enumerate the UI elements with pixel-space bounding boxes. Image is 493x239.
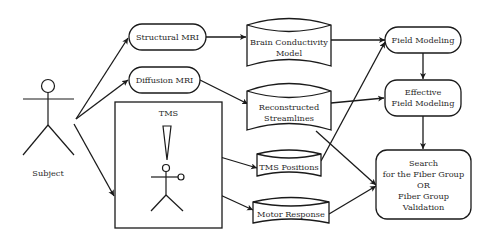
subject-label: Subject [32, 168, 64, 178]
search-label-line4: Fiber Group [398, 191, 449, 201]
effective-field-modeling-node: Effective Field Modeling [385, 80, 461, 116]
search-label-line1: Search [409, 158, 439, 168]
brain-model-label-line2: Model [276, 48, 302, 58]
brain-model-label-line1: Brain Conductivity [250, 37, 328, 47]
diffusion-mri-node: Diffusion MRI [129, 67, 200, 93]
field-modeling-node: Field Modeling [385, 27, 461, 53]
effective-label-line1: Effective [405, 87, 442, 97]
tms-box: TMS [115, 102, 222, 228]
search-validation-node: Search for the Fiber Group OR Fiber Grou… [376, 150, 471, 219]
effective-label-line2: Field Modeling [392, 98, 455, 108]
motor-response-label: Motor Response [257, 209, 325, 219]
diagram-canvas: Subject Structural MRI Diffusion MRI TMS… [0, 0, 493, 239]
streamlines-label-line1: Reconstructed [259, 102, 319, 112]
edge-streamlines-effective [331, 98, 384, 103]
edge-subject-tms [74, 124, 114, 196]
motor-response-node: Motor Response [253, 198, 329, 224]
stick-figure-icon [23, 80, 74, 156]
field-modeling-label: Field Modeling [392, 35, 455, 45]
tms-positions-node: TMS Positions [257, 150, 321, 176]
structural-mri-node: Structural MRI [129, 24, 206, 50]
edge-motor-search [329, 186, 376, 214]
edge-diffusion-streamlines [200, 80, 248, 104]
brain-conductivity-model-node: Brain Conductivity Model [247, 19, 331, 67]
search-label-line3: OR [417, 180, 431, 190]
diffusion-mri-label: Diffusion MRI [136, 75, 194, 85]
search-label-line2: for the Fiber Group [383, 169, 464, 179]
edge-streamlines-search [316, 131, 376, 185]
subject-actor: Subject [23, 80, 74, 179]
structural-mri-label: Structural MRI [136, 32, 199, 42]
search-label-line5: Validation [402, 202, 445, 212]
tms-positions-label: TMS Positions [259, 162, 318, 172]
streamlines-label-line2: Streamlines [264, 113, 314, 123]
tms-box-title: TMS [159, 108, 179, 118]
reconstructed-streamlines-node: Reconstructed Streamlines [247, 84, 331, 131]
